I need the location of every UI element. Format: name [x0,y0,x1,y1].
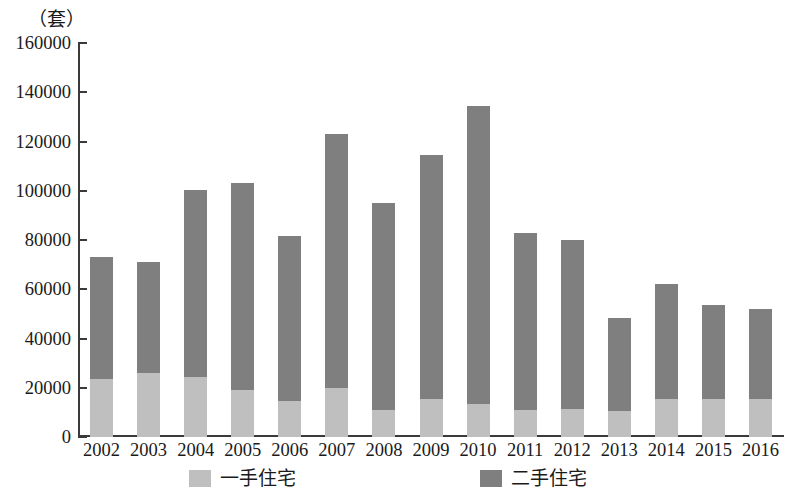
chart-legend: 一手住宅 二手住宅 [0,469,800,493]
bar-segment-first-hand [231,390,254,437]
x-axis-tick-label: 2015 [695,441,732,460]
x-axis-tick-label: 2007 [318,441,355,460]
bar-segment-second-hand [420,155,443,399]
bar-segment-second-hand [655,284,678,399]
bar-group [278,236,301,437]
x-axis-tick-label: 2013 [601,441,638,460]
y-axis-tick-label: 80000 [25,231,71,250]
x-axis-tick-label: 2016 [742,441,779,460]
bar-segment-second-hand [702,305,725,399]
bar-segment-first-hand [702,399,725,437]
bar-segment-first-hand [655,399,678,437]
y-axis-tick-label: 20000 [25,379,71,398]
y-axis-tick-label: 140000 [16,83,72,102]
bar-group [90,257,113,437]
bar-group [420,155,443,437]
bar-segment-second-hand [561,240,584,409]
x-axis-tick-label: 2010 [460,441,497,460]
bar-segment-first-hand [278,401,301,437]
bar-group [184,190,207,437]
bar-segment-first-hand [514,410,537,437]
x-axis-tick-label: 2009 [413,441,450,460]
bar-segment-first-hand [467,404,490,437]
y-axis-tick-label: 120000 [16,132,72,151]
bar-segment-second-hand [231,183,254,390]
x-axis-tick-label: 2002 [83,441,120,460]
x-axis-tick-label: 2004 [177,441,214,460]
y-axis-tick-label: 100000 [16,182,72,201]
x-axis-tick-label: 2014 [648,441,685,460]
bar-segment-second-hand [514,233,537,410]
bar-segment-second-hand [90,257,113,379]
y-axis-tick-label: 160000 [16,34,72,53]
bar-group [137,262,160,437]
x-axis-tick-label: 2008 [365,441,402,460]
bar-segment-first-hand [90,379,113,437]
bar-segment-first-hand [561,409,584,437]
bar-group [749,309,772,437]
bar-segment-second-hand [137,262,160,373]
bar-group [325,134,348,437]
x-axis-tick-label: 2006 [271,441,308,460]
bar-group [231,183,254,437]
x-axis-tick-label: 2011 [507,441,543,460]
bar-segment-second-hand [372,203,395,410]
legend-swatch-first-hand [189,470,211,487]
x-axis-tick-label: 2005 [224,441,261,460]
legend-label-second-hand: 二手住宅 [511,469,587,488]
legend-item-second-hand: 二手住宅 [480,469,587,488]
bar-segment-first-hand [372,410,395,437]
x-axis-tick-label: 2012 [554,441,591,460]
bar-segment-second-hand [608,318,631,412]
y-axis-tick-label: 40000 [25,329,71,348]
bar-group [467,106,490,437]
bar-segment-first-hand [325,388,348,437]
stacked-bar-chart: （套） 020000400006000080000100000120000140… [0,0,800,495]
bar-segment-second-hand [278,236,301,401]
bars-layer [78,43,784,437]
bar-group [608,318,631,437]
bar-segment-second-hand [467,106,490,404]
bar-segment-first-hand [420,399,443,437]
bar-segment-first-hand [749,399,772,437]
bar-group [702,305,725,437]
y-axis-unit-label: （套） [28,4,85,31]
bar-segment-first-hand [137,373,160,437]
legend-swatch-second-hand [480,470,502,487]
bar-segment-second-hand [184,190,207,377]
legend-item-first-hand: 一手住宅 [189,469,296,488]
legend-label-first-hand: 一手住宅 [220,469,296,488]
y-axis-tick-label: 0 [62,428,71,447]
bar-group [514,233,537,437]
bar-segment-second-hand [325,134,348,388]
y-axis-tick-label: 60000 [25,280,71,299]
bar-group [372,203,395,437]
bar-group [655,284,678,437]
x-axis-tick-label: 2003 [130,441,167,460]
bar-segment-second-hand [749,309,772,399]
bar-group [561,240,584,437]
bar-segment-first-hand [184,377,207,437]
bar-segment-first-hand [608,411,631,437]
